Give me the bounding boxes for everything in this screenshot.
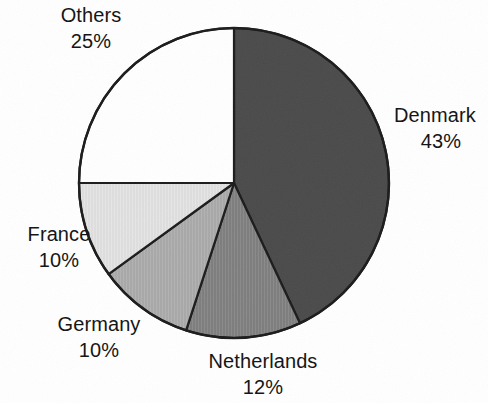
pie-slices	[79, 28, 389, 338]
slice-label-france: France 10%	[4, 222, 114, 273]
slice-label-others-value: 25%	[32, 29, 150, 55]
slice-label-netherlands-name: Netherlands	[188, 349, 338, 375]
slice-label-denmark-value: 43%	[394, 129, 488, 155]
slice-label-netherlands-value: 12%	[188, 375, 338, 401]
slice-label-germany-value: 10%	[36, 338, 162, 364]
slice-label-germany-name: Germany	[36, 312, 162, 338]
slice-label-denmark: Denmark 43%	[394, 103, 488, 154]
slice-label-france-value: 10%	[4, 248, 114, 274]
slice-label-others-name: Others	[32, 3, 150, 29]
slice-label-denmark-name: Denmark	[394, 103, 488, 129]
pie-chart: Others 25% Denmark 43% Netherlands 12% G…	[0, 0, 488, 403]
slice-label-germany: Germany 10%	[36, 312, 162, 363]
slice-label-france-name: France	[4, 222, 114, 248]
slice-label-netherlands: Netherlands 12%	[188, 349, 338, 400]
slice-label-others: Others 25%	[32, 3, 150, 54]
